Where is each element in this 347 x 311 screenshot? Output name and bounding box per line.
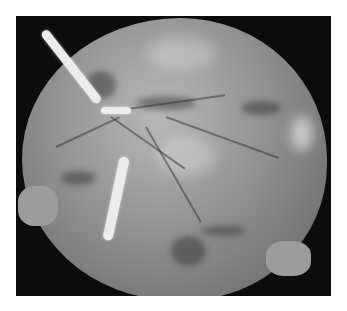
shadow-left xyxy=(61,171,96,185)
specimen-photo xyxy=(16,16,331,296)
membrane-flap-left xyxy=(18,186,58,226)
umbilical-cord-junction xyxy=(101,107,131,114)
shadow-upper-right xyxy=(241,101,281,115)
membrane-flap-right xyxy=(266,241,311,276)
shadow-lower-mid xyxy=(171,236,206,266)
highlight-top xyxy=(146,36,216,71)
shadow-lower-right xyxy=(201,226,246,236)
highlight-right xyxy=(291,116,313,151)
